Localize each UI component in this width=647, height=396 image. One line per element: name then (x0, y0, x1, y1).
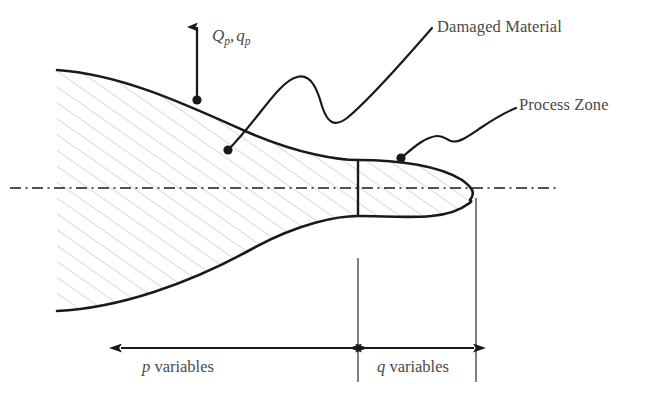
q-variables-symbol: q (377, 357, 385, 376)
process-zone-label: Process Zone (519, 95, 609, 115)
q-variables-word: variables (389, 357, 449, 376)
damaged-material-label: Damaged Material (437, 17, 562, 37)
load-symbol-q: q (236, 26, 245, 45)
crack-tip-diagram (0, 0, 647, 396)
p-variables-symbol: p (142, 357, 150, 376)
load-symbol-q-subscript: p (245, 35, 251, 47)
load-symbol-label: Qp,qp (212, 26, 251, 47)
figure-root: Qp,qp Damaged Material Process Zone p va… (0, 0, 647, 396)
q-variables-label: q variables (377, 357, 449, 377)
process-zone-leader-line (401, 108, 516, 158)
p-variables-word: variables (154, 357, 214, 376)
load-application-dot (192, 95, 201, 104)
damaged-material-region (0, 0, 647, 396)
load-symbol-Q: Q (212, 26, 224, 45)
p-variables-label: p variables (142, 357, 214, 377)
damaged-material-leader-line (228, 28, 432, 150)
